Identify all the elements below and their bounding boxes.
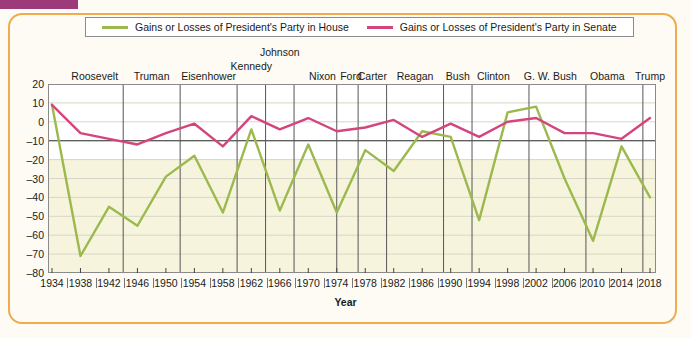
x-label-separator <box>381 278 382 288</box>
y-tick-label: –70 <box>18 248 44 260</box>
president-label: Obama <box>590 70 624 82</box>
x-label-separator <box>67 278 68 288</box>
legend-entry: Gains or Losses of President's Party in … <box>102 21 349 33</box>
president-label: Nixon <box>309 70 336 82</box>
x-tick-label: 1942 <box>97 277 120 289</box>
x-label-separator <box>210 278 211 288</box>
x-label-separator <box>495 278 496 288</box>
line-swatch-icon <box>367 26 393 29</box>
x-label-separator <box>609 278 610 288</box>
x-tick-label: 2010 <box>581 277 604 289</box>
x-tick-label: 1994 <box>467 277 490 289</box>
president-label: G. W. Bush <box>524 70 577 82</box>
x-label-separator <box>523 278 524 288</box>
chart-legend: Gains or Losses of President's Party in … <box>85 17 634 37</box>
x-label-separator <box>409 278 410 288</box>
x-tick-label: 1998 <box>496 277 519 289</box>
president-label: Eisenhower <box>181 70 236 82</box>
y-axis-labels: 20100–10–20–30–40–50–60–70–80 <box>16 84 44 273</box>
president-label: Johnson <box>260 46 300 58</box>
x-label-separator <box>96 278 97 288</box>
x-tick-label: 1958 <box>211 277 234 289</box>
y-tick-label: –50 <box>18 210 44 222</box>
y-tick-label: –20 <box>18 154 44 166</box>
y-tick-label: –40 <box>18 191 44 203</box>
x-axis-title: Year <box>0 296 691 308</box>
x-tick-label: 1938 <box>69 277 92 289</box>
x-label-separator <box>466 278 467 288</box>
y-tick-label: 10 <box>18 97 44 109</box>
president-label: Bush <box>446 70 470 82</box>
x-label-separator <box>181 278 182 288</box>
president-labels: RooseveltTrumanEisenhowerKennedyJohnsonN… <box>48 40 656 84</box>
x-label-separator <box>238 278 239 288</box>
x-label-separator <box>267 278 268 288</box>
x-tick-label: 1978 <box>354 277 377 289</box>
x-label-separator <box>438 278 439 288</box>
x-label-separator <box>124 278 125 288</box>
president-label: Trump <box>635 70 665 82</box>
president-label: Carter <box>358 70 387 82</box>
president-label: Kennedy <box>231 60 272 72</box>
president-label: Clinton <box>477 70 510 82</box>
page-corner-marker <box>0 0 78 9</box>
chart-plot-area <box>48 84 656 273</box>
president-label: Truman <box>134 70 170 82</box>
x-tick-label: 1950 <box>154 277 177 289</box>
x-tick-label: 1970 <box>297 277 320 289</box>
y-tick-label: 20 <box>18 78 44 90</box>
legend-entry: Gains or Losses of President's Party in … <box>367 21 617 33</box>
x-tick-label: 1966 <box>268 277 291 289</box>
x-tick-label: 1974 <box>325 277 348 289</box>
x-tick-label: 2014 <box>610 277 633 289</box>
x-label-separator <box>352 278 353 288</box>
x-label-separator <box>153 278 154 288</box>
x-label-separator <box>324 278 325 288</box>
y-tick-label: 0 <box>18 116 44 128</box>
x-tick-label: 1986 <box>411 277 434 289</box>
x-tick-label: 2006 <box>553 277 576 289</box>
x-tick-label: 2018 <box>638 277 661 289</box>
x-label-separator <box>580 278 581 288</box>
chart-svg <box>48 84 656 273</box>
x-tick-label: 2002 <box>524 277 547 289</box>
president-label: Roosevelt <box>71 70 118 82</box>
x-tick-label: 1962 <box>240 277 263 289</box>
x-label-separator <box>552 278 553 288</box>
x-tick-label: 1990 <box>439 277 462 289</box>
y-tick-label: –60 <box>18 229 44 241</box>
line-swatch-icon <box>102 26 128 29</box>
x-label-separator <box>637 278 638 288</box>
president-label: Reagan <box>397 70 434 82</box>
legend-label: Gains or Losses of President's Party in … <box>135 21 349 33</box>
x-tick-label: 1982 <box>382 277 405 289</box>
x-tick-label: 1934 <box>40 277 63 289</box>
legend-label: Gains or Losses of President's Party in … <box>400 21 617 33</box>
x-tick-label: 1954 <box>183 277 206 289</box>
x-axis-labels: 1934193819421946195019541958196219661970… <box>48 276 656 292</box>
y-tick-label: –10 <box>18 135 44 147</box>
x-tick-label: 1946 <box>126 277 149 289</box>
series-line <box>52 105 650 147</box>
y-tick-label: –30 <box>18 173 44 185</box>
x-label-separator <box>295 278 296 288</box>
